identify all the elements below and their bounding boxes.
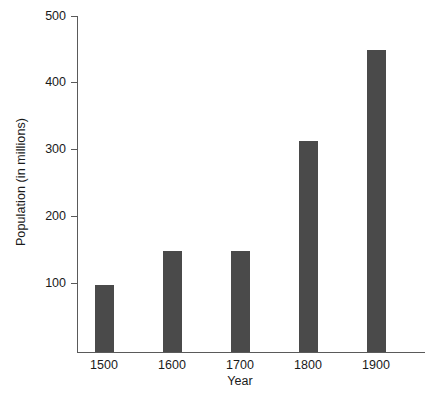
bar-1800 <box>299 141 318 352</box>
y-tick-mark-500 <box>71 16 78 17</box>
x-axis-line <box>77 352 425 353</box>
y-tick-mark-300 <box>71 149 78 150</box>
y-tick-mark-100 <box>71 283 78 284</box>
bar-1500 <box>95 285 114 352</box>
y-tick-mark-200 <box>71 216 78 217</box>
bar-chart-figure: Population (in millions) 100 200 300 400… <box>0 0 439 394</box>
y-tick-mark-400 <box>71 82 78 83</box>
x-tick-label-1900: 1900 <box>346 359 406 372</box>
x-tick-label-1700: 1700 <box>210 359 270 372</box>
bar-1900 <box>367 50 386 352</box>
y-tick-label-400: 400 <box>24 76 66 89</box>
x-tick-label-1800: 1800 <box>278 359 338 372</box>
y-axis-label: Population (in millions) <box>14 12 34 352</box>
y-tick-label-200: 200 <box>24 210 66 223</box>
x-axis-label: Year <box>180 374 300 388</box>
y-axis-line <box>77 16 78 353</box>
y-tick-label-300: 300 <box>24 143 66 156</box>
x-tick-label-1600: 1600 <box>142 359 202 372</box>
y-tick-label-100: 100 <box>24 277 66 290</box>
x-tick-label-1500: 1500 <box>74 359 134 372</box>
bar-1600 <box>163 251 182 352</box>
y-tick-label-500: 500 <box>24 10 66 23</box>
bar-1700 <box>231 251 250 352</box>
